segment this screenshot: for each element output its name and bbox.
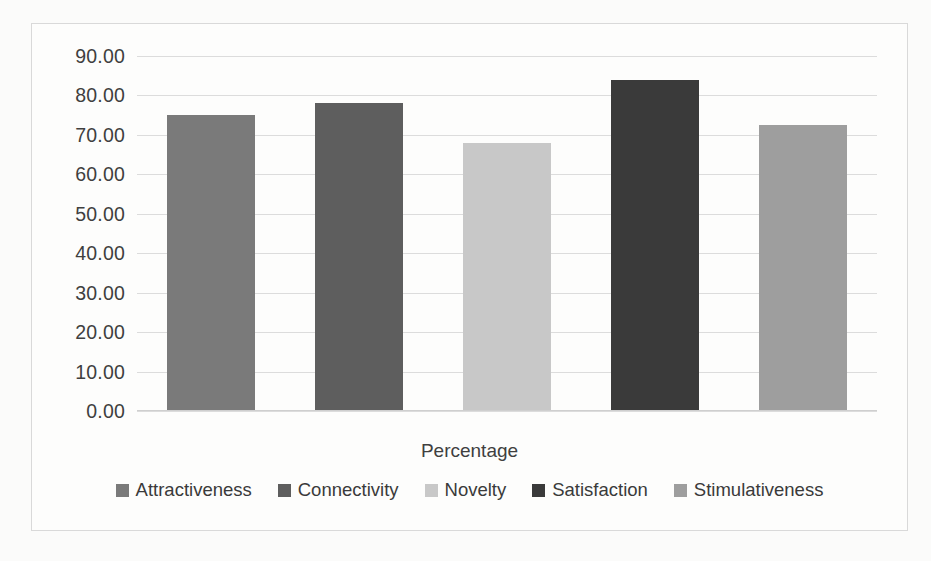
chart-legend: AttractivenessConnectivityNoveltySatisfa…	[32, 479, 907, 501]
legend-swatch-icon	[532, 484, 545, 497]
chart-frame: 90.0080.0070.0060.0050.0040.0030.0020.00…	[31, 23, 908, 531]
y-axis-tick-label: 30.00	[75, 281, 125, 304]
bar-stimulativeness	[759, 125, 846, 411]
y-axis-tick-label: 80.00	[75, 84, 125, 107]
bar-novelty	[463, 143, 550, 411]
legend-label: Attractiveness	[136, 479, 252, 501]
y-axis-tick-label: 20.00	[75, 321, 125, 344]
legend-swatch-icon	[674, 484, 687, 497]
y-axis-tick-label: 40.00	[75, 242, 125, 265]
legend-item-novelty[interactable]: Novelty	[425, 479, 507, 501]
bar-attractiveness	[167, 115, 254, 411]
x-axis-title: Percentage	[32, 440, 907, 462]
legend-label: Stimulativeness	[694, 479, 824, 501]
y-axis-tick-label: 10.00	[75, 360, 125, 383]
bar-series	[137, 56, 877, 411]
legend-swatch-icon	[116, 484, 129, 497]
y-axis-tick-label: 50.00	[75, 202, 125, 225]
legend-item-satisfaction[interactable]: Satisfaction	[532, 479, 648, 501]
y-axis-tick-label: 70.00	[75, 123, 125, 146]
legend-item-connectivity[interactable]: Connectivity	[278, 479, 399, 501]
page-background: 90.0080.0070.0060.0050.0040.0030.0020.00…	[0, 0, 931, 561]
y-axis-tick-label: 90.00	[75, 45, 125, 68]
legend-item-attractiveness[interactable]: Attractiveness	[116, 479, 252, 501]
y-axis-tick-label: 0.00	[86, 400, 125, 423]
bar-connectivity	[315, 103, 402, 411]
gridline	[137, 411, 877, 412]
legend-swatch-icon	[425, 484, 438, 497]
y-axis-tick-labels: 90.0080.0070.0060.0050.0040.0030.0020.00…	[32, 56, 125, 411]
plot-area	[137, 56, 877, 411]
legend-label: Satisfaction	[552, 479, 648, 501]
y-axis-tick-label: 60.00	[75, 163, 125, 186]
legend-swatch-icon	[278, 484, 291, 497]
bar-satisfaction	[611, 80, 698, 411]
x-axis-baseline	[137, 410, 877, 411]
legend-item-stimulativeness[interactable]: Stimulativeness	[674, 479, 824, 501]
legend-label: Novelty	[445, 479, 507, 501]
legend-label: Connectivity	[298, 479, 399, 501]
